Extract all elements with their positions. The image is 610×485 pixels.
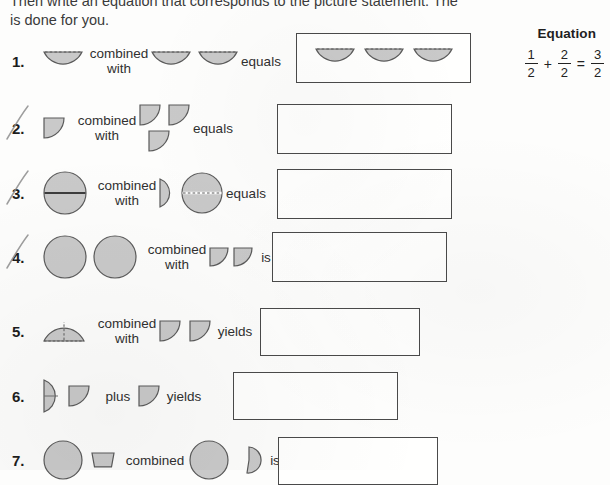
relation-label: equals [239,54,283,69]
right-operand-shapes [158,171,224,215]
left-operand-shapes [42,116,66,140]
answer-box-5[interactable] [260,308,420,356]
right-operand-shapes [137,384,161,408]
problem-number-3: 3. [0,185,42,202]
fraction-piece [150,49,192,74]
left-operand-shapes [42,170,88,216]
connector-line-1: combined [148,242,207,257]
problem-row-5: 5.combinedwithyields [0,310,258,352]
connector-line-2: with [95,128,119,143]
connector-line-2: with [107,61,131,76]
left-operand-shapes [42,49,84,74]
fraction-piece [90,451,116,470]
problem-number-text: 6. [12,388,25,405]
relation-label: yields [161,389,207,404]
instructions-text: Then write an equation that corresponds … [10,0,480,30]
fraction-piece [42,116,66,140]
fraction-piece [188,319,212,343]
connector-line-1: combined [98,316,157,331]
answer-box-7[interactable] [278,437,438,485]
fraction-piece [197,49,239,74]
connector-line-1: plus [106,389,131,404]
fraction-piece [67,384,91,408]
problem-row-2: 2.combinedwithequals [0,105,235,151]
connector-line-1: combined [78,113,137,128]
problem-number-text: 3. [12,185,25,202]
numerator: 3 [592,48,603,61]
answer-box-6[interactable] [233,372,398,420]
problem-row-4: 4.combinedwithis [0,232,278,282]
numerator: 1 [526,48,537,61]
right-operand-shapes [188,439,264,481]
problem-number-text: 4. [12,249,25,266]
equation-column-header: Equation [537,26,596,41]
fraction-two-halves: 2 2 [558,48,571,79]
problem-number-text: 5. [12,323,25,340]
answer-box-1[interactable] [296,33,471,83]
problem-number-text: 2. [12,120,25,137]
problem-row-6: 6.plusyields [0,374,207,418]
connector-label: combinedwith [88,46,150,76]
connector-line-1: combined [126,453,185,468]
fraction-piece [363,46,405,71]
fraction-one-half: 1 2 [525,48,538,79]
numerator: 2 [559,48,570,61]
problem-number-7: 7. [0,452,42,469]
problem-number-text: 1. [12,53,25,70]
fraction-piece [137,384,161,408]
right-operand-shapes [208,246,254,268]
answer-box-3[interactable] [277,169,452,219]
relation-label: equals [191,121,235,136]
problem-number-text: 7. [12,452,25,469]
problem-row-1: 1.combinedwithequals [0,38,283,84]
connector-line-1: combined [90,46,149,61]
connector-label: plus [99,389,137,404]
right-operand-shapes [158,319,212,343]
fraction-piece [42,439,84,481]
fraction-piece [42,49,84,74]
connector-label: combinedwith [76,113,138,143]
right-operand-shapes [138,103,191,153]
relation-label: equals [224,186,268,201]
fraction-piece [208,246,230,268]
fraction-piece [158,319,182,343]
instructions-line-1: Then write an equation that corresponds … [10,0,480,11]
right-operand-shapes [150,49,239,74]
fraction-three-halves: 3 2 [591,48,604,79]
fraction-piece [234,445,264,475]
connector-label: combinedwith [96,316,158,346]
instructions-line-2: is done for you. [10,12,109,28]
fraction-piece [42,378,61,414]
denominator: 2 [592,66,603,79]
fraction-piece [188,439,230,481]
left-operand-shapes [42,378,91,414]
problem-number-2: 2. [0,120,42,137]
answer-box-2[interactable] [277,104,452,154]
connector-label: combinedwith [96,178,158,208]
problem-number-5: 5. [0,323,42,340]
answer-box-4[interactable] [272,232,447,282]
problem-number-6: 6. [0,388,42,405]
problem-number-4: 4. [0,249,42,266]
problem-row-7: 7.combinedis [0,440,286,480]
connector-line-1: combined [98,178,157,193]
connector-line-2: with [165,257,189,272]
fraction-piece [158,177,175,209]
fraction-piece [138,103,162,127]
fraction-piece [147,129,171,153]
plus-operator: + [543,56,553,72]
connector-label: combined [122,453,188,468]
fraction-piece [42,234,88,280]
left-operand-shapes [42,234,138,280]
fraction-piece [167,103,191,127]
relation-label: yields [212,324,258,339]
fraction-piece [92,234,138,280]
problem-row-3: 3.combinedwithequals [0,170,268,216]
fraction-piece [232,246,254,268]
denominator: 2 [526,66,537,79]
connector-line-2: with [115,331,139,346]
example-equation: 1 2 + 2 2 = 3 2 [525,48,604,79]
connector-line-2: with [115,193,139,208]
left-operand-shapes [42,318,86,344]
equals-operator: = [576,56,586,72]
